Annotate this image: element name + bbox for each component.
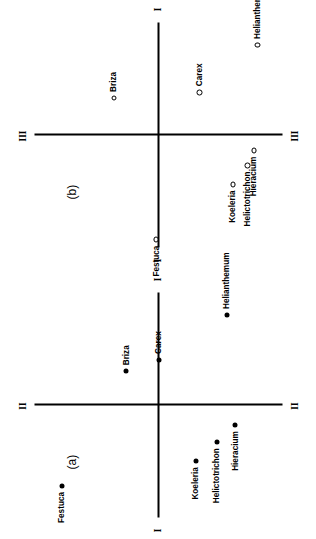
data-point-label: Helictotrichon [212,448,221,503]
rotated-figure-group: IIIIII(a)FestucaKoeleriaHelictotrichonHi… [0,0,316,539]
data-point [59,483,64,488]
data-point [232,422,237,427]
figure-canvas: IIIIII(a)FestucaKoeleriaHelictotrichonHi… [0,0,316,539]
axis-end-label-x-right: I [152,7,162,11]
data-point-label: Koeleria [191,467,200,499]
panel-b: IIIIIIII(b)FestucaKoeleriaHelictotrichon… [0,0,316,269]
panel-tag: (b) [64,184,78,199]
data-point [196,89,202,95]
data-point [230,181,236,187]
data-point-label: Festuca [57,492,66,523]
axis-end-label-y-top: II [17,402,27,409]
panel-a: IIIIII(a)FestucaKoeleriaHelictotrichonHi… [0,270,316,539]
axis-vertical [34,134,282,136]
data-point-label: Festuca [151,245,160,276]
data-point [156,357,161,362]
data-point-label: Koeleria [228,190,237,222]
data-point [123,368,128,373]
data-point-label: Briza [121,345,130,365]
axis-vertical [34,404,282,406]
data-point-label: Hieracium [230,431,239,471]
data-point [153,236,159,242]
data-point [254,42,260,48]
axis-end-label-x-right: I [152,277,162,281]
data-point [224,312,229,317]
data-point [193,458,198,463]
data-point [111,95,117,101]
axis-end-label-y-bottom: II [289,402,299,409]
panel-tag: (a) [64,454,78,469]
data-point-label: Carex [194,63,203,86]
data-point [214,439,219,444]
axis-end-label-y-bottom: III [289,130,299,141]
axis-end-label-x-left: I [152,528,162,532]
data-point-label: Hieracium [249,156,258,196]
data-point [251,147,257,153]
data-point-label: Briza [109,71,118,91]
data-point-label: Helianthemum [253,0,262,39]
axis-end-label-y-top: III [17,130,27,141]
data-point-label: Carex [154,331,163,354]
